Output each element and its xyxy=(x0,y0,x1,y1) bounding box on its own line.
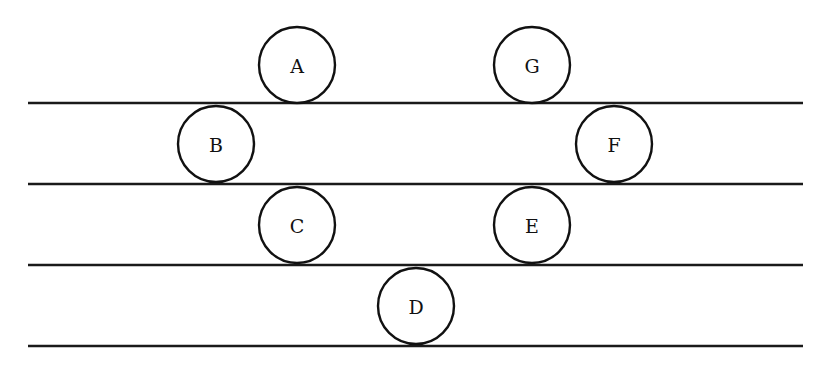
node-e: E xyxy=(494,187,570,263)
node-b: B xyxy=(178,106,254,182)
node-a: A xyxy=(259,27,335,103)
node-label: C xyxy=(290,215,305,237)
circle-nodes: ABCDEFG xyxy=(178,27,652,344)
node-g: G xyxy=(494,27,570,103)
node-label: A xyxy=(289,55,304,77)
node-label: G xyxy=(524,55,539,77)
node-label: E xyxy=(525,215,539,237)
node-label: D xyxy=(408,296,423,318)
node-label: F xyxy=(607,134,620,156)
node-c: C xyxy=(259,187,335,263)
node-label: B xyxy=(209,134,223,156)
node-d: D xyxy=(378,268,454,344)
node-f: F xyxy=(576,106,652,182)
diagram-canvas: ABCDEFG xyxy=(0,0,826,369)
